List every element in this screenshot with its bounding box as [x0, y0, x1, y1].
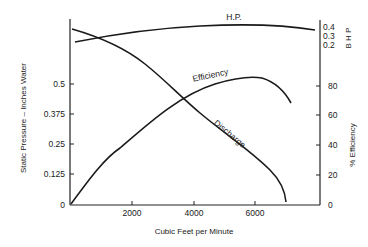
eff-tick-40: 40 [328, 140, 338, 150]
bhp-axis-label: B H P [344, 28, 353, 49]
tick-0.5: 0.5 [53, 79, 65, 89]
tick-0.125: 0.125 [44, 169, 66, 179]
tick-0.375: 0.375 [44, 109, 66, 119]
eff-tick-80: 80 [328, 81, 338, 91]
y-axis-label: Static Pressure – Inches Water [19, 63, 28, 173]
efficiency-axis-label: % Efficiency [348, 123, 357, 166]
discharge-curve-label: Discharge [212, 118, 248, 150]
hp-curve [75, 25, 315, 42]
x-axis-label: Cubic Feet per Minute [155, 227, 234, 236]
x-tick-4000: 4000 [185, 208, 204, 218]
fan-performance-chart: 0.5 0.375 0.25 0.125 0 2000 4000 6000 80… [0, 0, 368, 247]
hp-curve-label: H.P. [226, 12, 241, 22]
discharge-curve [72, 29, 286, 202]
tick-0: 0 [60, 200, 65, 210]
x-tick-2000: 2000 [123, 208, 142, 218]
left-y-tick-labels: 0.5 0.375 0.25 0.125 0 [44, 79, 66, 210]
eff-tick-60: 60 [328, 110, 338, 120]
x-tick-6000: 6000 [246, 208, 265, 218]
tick-0.25: 0.25 [48, 139, 65, 149]
eff-tick-0: 0 [328, 200, 333, 210]
bhp-tick-0.2: 0.2 [323, 40, 335, 50]
eff-tick-20: 20 [328, 170, 338, 180]
